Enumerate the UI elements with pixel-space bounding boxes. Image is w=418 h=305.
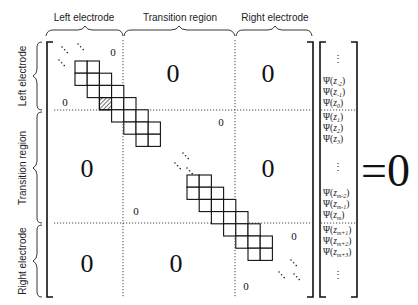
band-cell: [211, 199, 223, 211]
block-zero-left-transition: 0: [167, 59, 180, 88]
band-cell: [211, 187, 223, 199]
band-cell: [211, 212, 223, 224]
band-cell: [248, 236, 260, 248]
row-label-left-electrode: Left electrode: [17, 45, 28, 106]
band-cell: [199, 175, 211, 187]
vector-entry: Ψ(zm+2): [323, 236, 351, 247]
band-cell: [136, 110, 148, 122]
band-cell: [248, 224, 260, 236]
vector-entry: Ψ(z2): [323, 123, 343, 134]
column-label-transition-region: Transition region: [143, 12, 217, 23]
vector-entry: Ψ(zm+1): [323, 225, 351, 236]
vector-middle-ellipsis: ⋮: [333, 162, 343, 172]
vector-entry: Ψ(z-2): [323, 76, 345, 87]
band-cell: [136, 122, 148, 134]
band-cell: [112, 110, 124, 122]
ellipsis-dot: [293, 273, 295, 275]
band-cell: [260, 248, 272, 260]
block-zero-left-left-upper: 0: [110, 46, 116, 58]
band-cell: [148, 122, 160, 134]
band-cell: [136, 134, 148, 146]
band-cell: [124, 98, 136, 110]
matrix-right-bracket: [307, 42, 313, 297]
ellipsis-dot: [179, 168, 181, 170]
ellipsis-dot: [64, 49, 66, 51]
column-label-right-electrode: Right electrode: [241, 12, 309, 23]
band-diagonal-cells: [75, 61, 272, 260]
vector-entry: Ψ(z1): [323, 112, 343, 123]
ellipsis-dot: [177, 165, 179, 167]
ellipsis-dot: [58, 59, 60, 61]
band-cell: [87, 73, 99, 85]
ellipsis-dot: [295, 265, 297, 267]
band-cell: [224, 199, 236, 211]
ellipsis-dot: [77, 43, 79, 45]
band-cell: [124, 122, 136, 134]
vector-entry: Ψ(zm): [323, 210, 344, 221]
vector-entry: Ψ(z-1): [323, 87, 345, 98]
vector-right-bracket: [351, 42, 357, 297]
block-zero-right-right-lower: 0: [243, 280, 249, 292]
top-braces: [46, 26, 312, 36]
ellipsis-dot: [281, 274, 283, 276]
ellipsis-dot: [66, 52, 68, 54]
vector-entry: Ψ(z3): [323, 134, 343, 145]
ellipsis-dot: [293, 262, 295, 264]
ellipsis-dot: [61, 46, 63, 48]
ellipsis-dot: [82, 49, 84, 51]
vector-entry: Ψ(zm-2): [323, 188, 349, 199]
top-brace-left-electrode: [46, 26, 123, 36]
band-cell: [99, 73, 111, 85]
top-brace-transition-region: [124, 26, 235, 36]
left-brace-left-electrode: [33, 42, 42, 110]
block-zero-right-left: 0: [81, 249, 94, 278]
ellipsis-dot: [174, 162, 176, 164]
band-cell: [187, 187, 199, 199]
ellipsis-dot: [63, 65, 65, 67]
left-braces: [33, 42, 42, 297]
vector-bottom-ellipsis: ⋮: [333, 270, 343, 280]
band-cell: [124, 110, 136, 122]
coupling-cell-hatched: [99, 98, 111, 110]
band-cell: [112, 85, 124, 97]
equation-rhs: =0: [361, 145, 410, 196]
block-zero-left-left-corner: 0: [62, 96, 68, 108]
vector-entry: Ψ(zm-1): [323, 199, 349, 210]
ellipsis-dot: [185, 155, 187, 157]
ellipsis-dot: [296, 276, 298, 278]
block-zero-transition-transition-upper: 0: [218, 116, 224, 128]
block-zero-transition-right: 0: [262, 154, 275, 183]
band-cell: [148, 134, 160, 146]
band-cell: [187, 175, 199, 187]
ellipsis-dot: [283, 277, 285, 279]
vector-top-ellipsis: ⋮: [333, 54, 343, 64]
band-cell: [236, 212, 248, 224]
ellipsis-dot: [290, 259, 292, 261]
block-zero-right-right-upper: 0: [291, 230, 297, 242]
ellipsis-dot: [182, 152, 184, 154]
band-cell: [75, 73, 87, 85]
block-zero-transition-left: 0: [81, 154, 94, 183]
ellipsis-dot: [61, 62, 63, 64]
row-label-transition-region: Transition region: [17, 131, 28, 205]
row-label-right-electrode: Right electrode: [17, 227, 28, 295]
band-cell: [260, 236, 272, 248]
ellipsis-dot: [298, 279, 300, 281]
matrix-equation-diagram: Left electrode Transition region Right e…: [0, 0, 418, 305]
band-cell: [224, 212, 236, 224]
ellipsis-dot: [80, 46, 82, 48]
ellipsis-dot: [278, 271, 280, 273]
band-cell: [87, 61, 99, 73]
column-label-left-electrode: Left electrode: [54, 12, 115, 23]
band-cell: [112, 98, 124, 110]
band-cell: [199, 187, 211, 199]
band-cell: [248, 248, 260, 260]
left-brace-right-electrode: [33, 225, 42, 297]
block-zero-left-right: 0: [262, 59, 275, 88]
band-cell: [236, 236, 248, 248]
left-brace-transition-region: [33, 112, 42, 223]
band-cell: [99, 85, 111, 97]
ellipsis-dot: [189, 170, 191, 172]
band-cell: [199, 199, 211, 211]
block-zero-transition-transition-lower: 0: [133, 205, 139, 217]
